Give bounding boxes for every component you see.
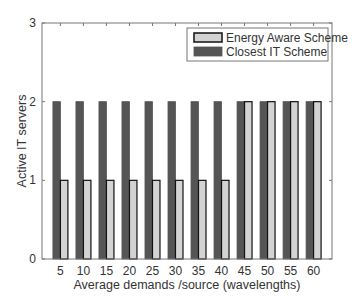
bar-closest-it [191,102,199,259]
legend-swatch [194,33,222,42]
y-tick-label: 3 [29,16,36,30]
bar-energy-aware [291,102,299,259]
x-tick-label: 25 [146,264,160,278]
bar-energy-aware [314,102,322,259]
y-tick-label: 2 [29,95,36,109]
x-tick-label: 10 [77,264,91,278]
bar-energy-aware [106,180,114,259]
bar-closest-it [260,102,268,259]
bar-energy-aware [60,180,68,259]
x-tick-label: 40 [215,264,229,278]
x-tick-label: 15 [100,264,114,278]
y-tick-label: 1 [29,173,36,187]
y-tick-label: 0 [29,252,36,266]
bar-closest-it [145,102,153,259]
x-axis-label: Average demands /source (wavelengths) [74,278,301,292]
bar-closest-it [99,102,107,259]
x-tick-label: 60 [307,264,321,278]
bar-closest-it [283,102,291,259]
legend-swatch [194,47,222,56]
x-tick-label: 55 [284,264,298,278]
x-tick-label: 5 [57,264,64,278]
bar-closest-it [168,102,176,259]
bar-closest-it [53,102,61,259]
bar-energy-aware [129,180,137,259]
x-tick-label: 20 [123,264,137,278]
x-tick-label: 50 [261,264,275,278]
x-tick-label: 45 [238,264,252,278]
bar-closest-it [306,102,314,259]
bar-chart: 012351015202530354045505560 Energy Aware… [0,0,357,303]
bar-closest-it [237,102,245,259]
bar-closest-it [76,102,84,259]
legend-label: Energy Aware Scheme [226,31,348,45]
bar-energy-aware [175,180,183,259]
bar-closest-it [122,102,130,259]
bar-closest-it [214,102,222,259]
y-axis-label: Active IT servers [15,95,29,188]
bar-energy-aware [199,180,207,259]
bar-energy-aware [83,180,91,259]
legend: Energy Aware SchemeClosest IT Scheme [187,28,348,61]
bar-energy-aware [222,180,230,259]
legend-label: Closest IT Scheme [226,45,327,59]
bar-energy-aware [152,180,160,259]
x-tick-label: 30 [169,264,183,278]
bar-energy-aware [245,102,253,259]
x-tick-label: 35 [192,264,206,278]
bar-energy-aware [268,102,276,259]
